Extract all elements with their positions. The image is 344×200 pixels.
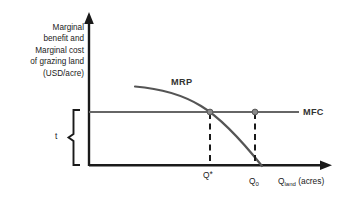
mfc-label: MFC xyxy=(303,107,324,117)
x-axis-label: Qland (acres) xyxy=(278,176,324,186)
q-zero-label: Q0 xyxy=(249,176,259,186)
x-axis-label-subscript: land xyxy=(285,181,296,187)
q-zero-main: Q xyxy=(249,176,256,186)
y-axis-label-line-1: Marginal xyxy=(0,22,84,33)
t-brace xyxy=(69,110,81,165)
q-zero-subscript: 0 xyxy=(256,181,259,187)
q-star-main: Q xyxy=(203,170,210,180)
x-axis-label-unit: (acres) xyxy=(298,176,324,186)
q-star-marker-dot xyxy=(207,109,213,115)
mrp-curve xyxy=(135,87,262,167)
q-star-label: Q* xyxy=(203,170,213,180)
mrp-label: MRP xyxy=(171,77,192,87)
q-star-superscript: * xyxy=(210,169,213,179)
economics-diagram-figure: Marginal benefit and Marginal cost of gr… xyxy=(0,0,344,200)
y-axis-label-line-2: benefit and xyxy=(0,33,84,44)
y-axis-label-line-5: (USD/acre) xyxy=(0,68,84,79)
y-axis xyxy=(84,12,94,166)
t-label: t xyxy=(55,131,57,141)
y-axis-label-line-4: of grazing land xyxy=(0,56,84,67)
y-axis-label-line-3: Marginal cost xyxy=(0,45,84,56)
y-axis-label: Marginal benefit and Marginal cost of gr… xyxy=(0,22,84,79)
q-zero-marker-dot xyxy=(252,109,258,115)
x-axis-label-main: Q xyxy=(278,176,285,186)
